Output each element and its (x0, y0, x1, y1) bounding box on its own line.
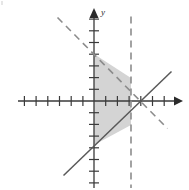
shaded-solution-region (94, 54, 131, 145)
y-axis-label: y (100, 7, 105, 17)
coordinate-plane: y (0, 0, 189, 190)
y-axis-arrow-icon (90, 8, 99, 18)
x-axis-arrow-icon (174, 97, 183, 106)
graph-figure: y (0, 0, 189, 190)
